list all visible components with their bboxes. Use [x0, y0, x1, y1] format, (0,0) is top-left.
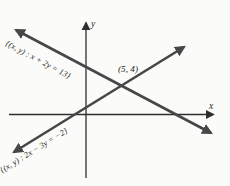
coordinate-plane-figure: y x {(x, y) : x + 2y = 13} {(x, y) : 2x … [0, 0, 230, 186]
line-x-plus-2y-equals-13 [16, 30, 211, 133]
y-axis-label: y [90, 19, 96, 29]
ascending-line-set-label: {(x, y) : 2x − 3y = −2} [0, 126, 70, 175]
x-axis-label: x [208, 101, 214, 111]
graph-canvas: y x {(x, y) : x + 2y = 13} {(x, y) : 2x … [0, 0, 230, 186]
descending-line-set-label: {(x, y) : x + 2y = 13} [4, 39, 72, 81]
intersection-point-label: (5, 4) [118, 64, 138, 74]
